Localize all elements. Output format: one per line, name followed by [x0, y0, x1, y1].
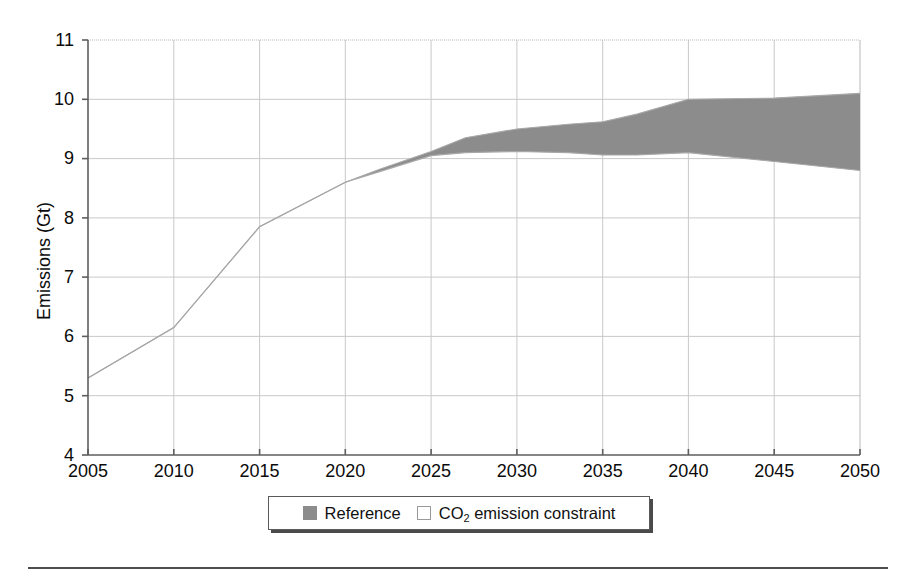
- emissions-figure: Emissions (Gt) 11 10 9 8 7 6 5 4 2005 20…: [0, 0, 918, 581]
- x-tick-label-2005: 2005: [58, 462, 118, 480]
- x-tick-label-2010: 2010: [144, 462, 204, 480]
- y-tick-marks: [82, 40, 88, 455]
- legend-label-co2-constraint: CO2 emission constraint: [439, 505, 616, 522]
- x-tick-label-2050: 2050: [830, 462, 890, 480]
- legend-swatch-reference-icon: [303, 506, 317, 520]
- x-tick-label-2015: 2015: [230, 462, 290, 480]
- legend-entry-reference[interactable]: Reference: [303, 505, 401, 522]
- y-tick-label-10: 10: [44, 90, 74, 108]
- legend-label-co2-prefix: CO: [439, 504, 464, 522]
- x-tick-label-2020: 2020: [315, 462, 375, 480]
- emissions-chart-plot: [0, 0, 918, 581]
- legend-swatch-co2-constraint-icon: [417, 506, 431, 520]
- legend-label-reference: Reference: [325, 505, 401, 522]
- y-tick-label-9: 9: [44, 149, 74, 167]
- chart-legend: Reference CO2 emission constraint: [268, 496, 650, 530]
- x-tick-label-2035: 2035: [573, 462, 633, 480]
- y-tick-label-6: 6: [44, 327, 74, 345]
- y-tick-label-5: 5: [44, 387, 74, 405]
- legend-label-co2-suffix: emission constraint: [470, 504, 616, 522]
- x-tick-label-2045: 2045: [744, 462, 804, 480]
- y-tick-label-8: 8: [44, 209, 74, 227]
- y-tick-label-7: 7: [44, 268, 74, 286]
- x-tick-label-2025: 2025: [401, 462, 461, 480]
- legend-label-co2-subscript: 2: [463, 512, 469, 524]
- x-tick-label-2040: 2040: [658, 462, 718, 480]
- legend-entry-co2-constraint[interactable]: CO2 emission constraint: [417, 505, 616, 522]
- y-tick-label-11: 11: [44, 31, 74, 49]
- footer-divider: [28, 567, 888, 569]
- x-tick-label-2030: 2030: [487, 462, 547, 480]
